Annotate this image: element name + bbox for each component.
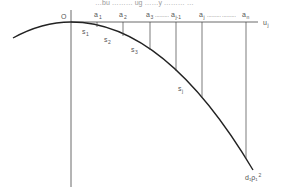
segment-label-sj: sj xyxy=(178,85,183,94)
axis-label-uj: uj xyxy=(263,19,269,28)
end-label: d₁ρ₁2 xyxy=(245,172,262,182)
svg-text:a3: a3 xyxy=(146,11,153,20)
point-label-a1: a1 xyxy=(94,11,102,20)
parabola-curve xyxy=(13,22,253,170)
svg-text:a2: a2 xyxy=(119,11,127,20)
svg-text:s1: s1 xyxy=(82,28,89,37)
segment-label-s1: s1 xyxy=(82,28,89,37)
segment-label-s3: s3 xyxy=(131,46,138,55)
point-label-a2: a2 xyxy=(119,11,127,20)
svg-text:uj: uj xyxy=(263,19,269,28)
svg-text:a1: a1 xyxy=(94,11,102,20)
origin-label: O xyxy=(61,13,67,20)
parabola-diagram: …bu ……… ug ……y ……… … O a1 a2 a3 ........… xyxy=(0,0,283,190)
svg-text:s3: s3 xyxy=(131,46,138,55)
svg-text:sj: sj xyxy=(178,85,183,94)
dots-2: .......... xyxy=(207,12,221,18)
svg-text:aj: aj xyxy=(199,11,205,20)
point-label-a3: a3 xyxy=(146,11,153,20)
point-label-aj-1: aj-1 xyxy=(171,11,181,20)
svg-text:an: an xyxy=(242,11,249,20)
svg-text:aj-1: aj-1 xyxy=(171,11,181,20)
svg-text:s2: s2 xyxy=(104,36,111,45)
svg-text:d₁ρ₁2: d₁ρ₁2 xyxy=(245,172,262,182)
segment-label-s2: s2 xyxy=(104,36,111,45)
dots-1: .......... xyxy=(155,12,169,18)
caption: …bu ……… ug ……y ……… … xyxy=(95,0,194,7)
point-label-aj: aj xyxy=(199,11,205,20)
dots-3: .......... xyxy=(222,12,236,18)
point-label-an: an xyxy=(242,11,249,20)
